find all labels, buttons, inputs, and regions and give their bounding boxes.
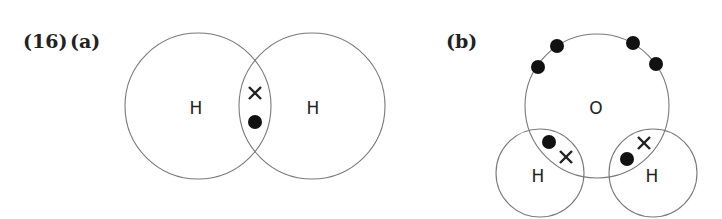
part-b-diagram: O H H [496,34,697,217]
dot-cross-diagram: (16) (a) (b) H H O H H [0,0,722,219]
cross-electron-icon [638,137,650,149]
dot-electron-icon [248,115,262,129]
lone-pair-dot-icon [531,60,545,74]
part-a-diagram: H H [125,33,385,179]
hydrogen-symbol-left: H [532,166,545,186]
dot-electron-icon [620,152,634,166]
lone-pair-dot-icon [626,36,640,50]
lone-pair-dot-icon [649,57,663,71]
question-number: (16) [23,30,67,52]
part-a-label: (a) [70,30,100,52]
part-b-label: (b) [446,30,477,52]
dot-electron-icon [542,135,556,149]
hydrogen-symbol-left: H [190,98,203,118]
lone-pair-dot-icon [550,39,564,53]
cross-electron-icon [560,151,572,163]
cross-electron-icon [249,87,261,99]
oxygen-symbol: O [589,98,602,118]
hydrogen-symbol-right: H [307,98,320,118]
hydrogen-symbol-right: H [646,166,659,186]
